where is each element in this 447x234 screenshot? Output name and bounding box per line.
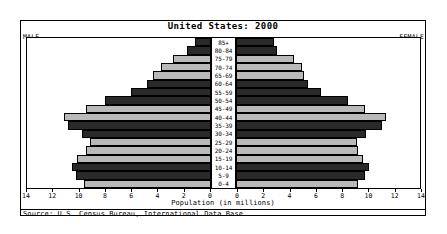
pyramid-row: 15-19 (27, 155, 420, 163)
pyramid-row: 65-69 (27, 71, 420, 79)
male-bar (161, 63, 211, 71)
male-bar (86, 105, 211, 113)
female-bar (236, 96, 348, 104)
male-bar-cell (27, 80, 211, 88)
age-group-label: 25-29 (211, 138, 236, 146)
female-bar (236, 155, 363, 163)
age-group-label: 60-64 (211, 80, 236, 88)
male-bar-cell (27, 88, 211, 96)
male-bar (90, 138, 211, 146)
age-group-label: 50-54 (211, 96, 236, 104)
male-bar (77, 155, 211, 163)
pyramid-row: 5-9 (27, 171, 420, 179)
female-bar-cell (236, 113, 420, 121)
population-pyramid-chart: United States: 2000 MALE FEMALE 85+80-84… (0, 0, 447, 234)
age-group-label: 35-39 (211, 121, 236, 129)
male-bar-cell (27, 55, 211, 63)
female-bar-cell (236, 163, 420, 171)
age-group-label: 85+ (211, 38, 236, 46)
male-bar (187, 46, 211, 54)
female-bar (236, 113, 386, 121)
male-bar (131, 88, 211, 96)
female-bar (236, 46, 277, 54)
female-bar-cell (236, 38, 420, 46)
male-bar-cell (27, 171, 211, 179)
female-bar (236, 130, 366, 138)
male-bar (82, 130, 211, 138)
male-bar-cell (27, 130, 211, 138)
female-bar-cell (236, 80, 420, 88)
pyramid-row: 40-44 (27, 113, 420, 121)
age-group-label: 30-34 (211, 130, 236, 138)
male-bar-cell (27, 38, 211, 46)
female-bar (236, 80, 308, 88)
male-bar (173, 55, 211, 63)
female-bar (236, 146, 358, 154)
male-bar (76, 171, 211, 179)
pyramid-row: 30-34 (27, 130, 420, 138)
female-bar-cell (236, 130, 420, 138)
female-bar (236, 138, 357, 146)
male-bar-cell (27, 121, 211, 129)
male-bar-cell (27, 180, 211, 188)
female-bar-cell (236, 71, 420, 79)
pyramid-row: 60-64 (27, 80, 420, 88)
male-bar (68, 121, 211, 129)
female-bar-cell (236, 55, 420, 63)
pyramid-row: 70-74 (27, 63, 420, 71)
male-bar (64, 113, 211, 121)
female-bar (236, 171, 365, 179)
pyramid-row: 35-39 (27, 121, 420, 129)
age-group-label: 0-4 (211, 180, 236, 188)
male-bar-cell (27, 138, 211, 146)
male-bar-cell (27, 163, 211, 171)
age-group-label: 10-14 (211, 163, 236, 171)
female-bar (236, 71, 304, 79)
page-title: United States: 2000 (21, 21, 425, 32)
age-group-label: 15-19 (211, 155, 236, 163)
male-bar (153, 71, 211, 79)
x-axis-label: Population (in millions) (21, 199, 425, 208)
female-bar-cell (236, 88, 420, 96)
pyramid-row: 75-79 (27, 55, 420, 63)
pyramid-row: 20-24 (27, 146, 420, 154)
female-bar (236, 180, 358, 188)
female-bar-cell (236, 171, 420, 179)
male-bar-cell (27, 63, 211, 71)
female-bar-cell (236, 63, 420, 71)
male-bar (147, 80, 211, 88)
plot-area: 85+80-8475-7970-7465-6960-6455-5950-5445… (26, 37, 421, 189)
female-bar-cell (236, 155, 420, 163)
male-bar-cell (27, 96, 211, 104)
age-group-label: 40-44 (211, 113, 236, 121)
pyramid-row: 25-29 (27, 138, 420, 146)
age-group-label: 45-49 (211, 105, 236, 113)
pyramid-row: 80-84 (27, 46, 420, 54)
pyramid-row: 85+ (27, 38, 420, 46)
female-bar (236, 63, 302, 71)
age-group-label: 70-74 (211, 63, 236, 71)
pyramid-row: 10-14 (27, 163, 420, 171)
pyramid-row: 0-4 (27, 180, 420, 188)
female-bar (236, 38, 274, 46)
male-bar (105, 96, 211, 104)
male-bar (195, 38, 211, 46)
pyramid-row: 45-49 (27, 105, 420, 113)
male-bar-cell (27, 113, 211, 121)
pyramid-row: 50-54 (27, 96, 420, 104)
female-bar-cell (236, 96, 420, 104)
age-group-label: 5-9 (211, 171, 236, 179)
female-bar-cell (236, 146, 420, 154)
age-group-label: 55-59 (211, 88, 236, 96)
female-bar (236, 105, 365, 113)
age-group-label: 80-84 (211, 46, 236, 54)
female-bar-cell (236, 46, 420, 54)
source-note: Source: U.S. Census Bureau, Internationa… (23, 210, 247, 219)
age-group-label: 75-79 (211, 55, 236, 63)
female-bar-cell (236, 105, 420, 113)
male-bar-cell (27, 105, 211, 113)
male-bar (72, 163, 211, 171)
female-bar (236, 163, 369, 171)
male-bar-cell (27, 71, 211, 79)
male-bar-cell (27, 155, 211, 163)
